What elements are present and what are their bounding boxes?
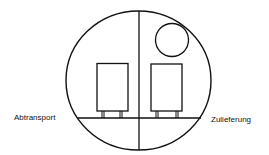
right-container: [151, 64, 182, 118]
label-zulieferung: Zulieferung: [211, 115, 251, 124]
diagram-canvas: [0, 0, 269, 155]
left-container: [97, 64, 128, 119]
label-abtransport: Abtransport: [14, 113, 55, 122]
small-circle: [156, 24, 189, 57]
